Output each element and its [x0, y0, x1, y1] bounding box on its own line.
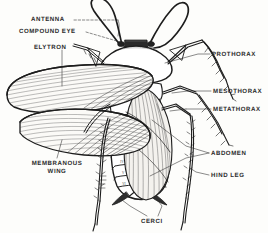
- anatomy-figure: I II III IV V VI: [0, 0, 268, 233]
- label-antenna: ANTENNA: [31, 16, 65, 24]
- label-elytron: ELYTRON: [34, 44, 66, 52]
- label-prothorax: PROTHORAX: [212, 51, 256, 59]
- label-hind-leg: HIND LEG: [211, 172, 245, 180]
- label-abdomen: ABDOMEN: [211, 150, 246, 158]
- label-metathorax: METATHORAX: [213, 106, 261, 114]
- compound-eye-left: [118, 41, 125, 46]
- label-membranous-wing-line2: WING: [48, 168, 67, 175]
- left-foreleg: [73, 44, 104, 66]
- label-membranous-wing: MEMBRANOUS WING: [27, 160, 87, 176]
- leader-hind-leg: [190, 168, 209, 175]
- leader-cerci-left: [122, 200, 147, 216]
- leader-compound-eye: [86, 32, 134, 46]
- compound-eye-right: [148, 41, 155, 46]
- label-compound-eye: COMPOUND EYE: [19, 28, 76, 36]
- antenna-right: [149, 3, 188, 48]
- label-membranous-wing-line1: MEMBRANOUS: [32, 160, 83, 167]
- label-mesothorax: MESOTHORAX: [213, 88, 262, 96]
- label-cerci: CERCI: [141, 218, 163, 226]
- svg-text:VI: VI: [122, 182, 125, 186]
